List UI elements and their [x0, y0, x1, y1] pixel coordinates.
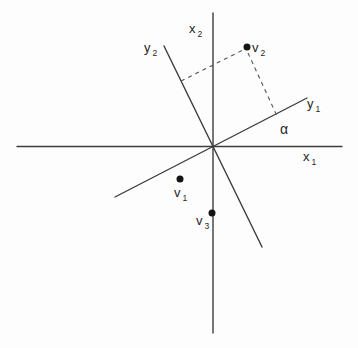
x2-axis-label-sub: 2 — [198, 29, 203, 39]
x1-axis-label-sub: 1 — [312, 157, 317, 167]
y2-axis-label-base: y — [144, 40, 151, 55]
point-v1-label: v1 — [174, 186, 187, 199]
point-v3-label-base: v — [196, 213, 203, 228]
y2-axis-label-sub: 2 — [153, 48, 158, 58]
angle-alpha-label: α — [280, 122, 288, 136]
y1-axis-label: y1 — [307, 97, 320, 110]
point-v2-label: v2 — [252, 41, 265, 54]
y1-axis — [115, 98, 307, 197]
point-v3-label-sub: 3 — [205, 221, 210, 231]
v2-projection-onto-y2 — [181, 50, 243, 81]
point-v2 — [244, 44, 251, 51]
y1-axis-label-base: y — [307, 96, 314, 111]
v2-projection-onto-y1 — [248, 53, 277, 116]
point-v2-label-sub: 2 — [261, 48, 266, 58]
coordinate-diagram-svg — [0, 0, 358, 348]
point-v1-label-sub: 1 — [183, 193, 188, 203]
point-v1-label-base: v — [174, 185, 181, 200]
x2-axis-label-base: x — [189, 21, 196, 36]
point-v2-label-base: v — [252, 40, 259, 55]
y1-axis-label-sub: 1 — [316, 104, 321, 114]
x2-axis-label: x2 — [189, 22, 202, 35]
figure-canvas: x2 x1 y2 y1 v2 v1 v3 α — [0, 0, 358, 348]
point-v3-label: v3 — [196, 214, 209, 227]
x1-axis-label-base: x — [303, 149, 310, 164]
point-v1 — [177, 176, 184, 183]
y2-axis-label: y2 — [144, 41, 157, 54]
x1-axis-label: x1 — [303, 150, 316, 163]
point-v3 — [209, 210, 216, 217]
